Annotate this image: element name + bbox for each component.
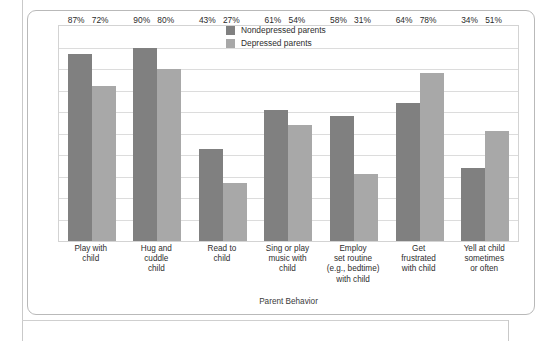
bar-group: 61%54% [256, 26, 322, 241]
x-axis-category-labels: Play withchildHug andcuddlechildRead toc… [58, 244, 519, 296]
category-label-line: sometimes [443, 254, 525, 264]
page-edge-right-rule [508, 320, 509, 341]
category-label: Yell at childsometimesor often [443, 244, 525, 275]
bar-column: 80% [157, 26, 181, 241]
bar-column: 78% [420, 26, 444, 241]
bar-group: 43%27% [190, 26, 256, 241]
bar-value-label: 80% [157, 15, 174, 25]
legend-label: Depressed parents [241, 38, 312, 48]
bar[interactable]: 27% [223, 183, 247, 241]
plot-area: 87%72%90%80%43%27%61%54%58%31%64%78%34%5… [58, 25, 519, 242]
bar-value-label: 31% [354, 15, 371, 25]
x-axis-title: Parent Behavior [58, 297, 519, 306]
chart-legend: Nondepressed parentsDepressed parents [226, 25, 326, 48]
bar-value-label: 54% [288, 15, 305, 25]
bar[interactable]: 72% [92, 86, 116, 241]
page-bottom-rule [22, 320, 509, 321]
bar-group: 87%72% [59, 26, 125, 241]
bar-value-label: 72% [92, 15, 109, 25]
category-label-line: Yell at child [443, 244, 525, 254]
bar-column: 54% [288, 26, 312, 241]
bar[interactable]: 87% [68, 54, 92, 241]
bar-value-label: 51% [485, 15, 502, 25]
bar-value-label: 43% [199, 15, 216, 25]
bar-value-label: 61% [264, 15, 281, 25]
legend-item[interactable]: Nondepressed parents [226, 25, 326, 35]
bar-column: 51% [485, 26, 509, 241]
bar-group: 34%51% [452, 26, 518, 241]
bar[interactable]: 34% [461, 168, 485, 241]
bar[interactable]: 54% [288, 125, 312, 241]
bar[interactable]: 43% [199, 149, 223, 241]
bar-value-label: 58% [330, 15, 347, 25]
bar-value-label: 78% [420, 15, 437, 25]
legend-swatch-icon [226, 39, 235, 48]
bar-group: 90%80% [125, 26, 191, 241]
bar-group: 58%31% [321, 26, 387, 241]
bar[interactable]: 61% [264, 110, 288, 241]
bar-column: 58% [330, 26, 354, 241]
page-edge-left-rule [22, 0, 23, 341]
figure-card: Percentage Who Act This Way Every Day 87… [27, 10, 535, 315]
bar[interactable]: 51% [485, 131, 509, 241]
bar[interactable]: 31% [354, 174, 378, 241]
bar-column: 61% [264, 26, 288, 241]
bar-group: 64%78% [387, 26, 453, 241]
bar-value-label: 34% [461, 15, 478, 25]
bar[interactable]: 80% [157, 69, 181, 241]
bar-column: 90% [133, 26, 157, 241]
bar-value-label: 27% [223, 15, 240, 25]
bar[interactable]: 58% [330, 116, 354, 241]
category-label-line: child [116, 264, 198, 274]
legend-swatch-icon [226, 26, 235, 35]
bar-column: 31% [354, 26, 378, 241]
bar-value-label: 87% [68, 15, 85, 25]
bar-column: 34% [461, 26, 485, 241]
bar[interactable]: 64% [396, 103, 420, 241]
bar[interactable]: 78% [420, 73, 444, 241]
bar-value-label: 90% [133, 15, 150, 25]
legend-item[interactable]: Depressed parents [226, 38, 326, 48]
legend-label: Nondepressed parents [241, 25, 326, 35]
bar-column: 64% [396, 26, 420, 241]
bar-column: 72% [92, 26, 116, 241]
bar-value-label: 64% [396, 15, 413, 25]
bar-column: 43% [199, 26, 223, 241]
bar[interactable]: 90% [133, 48, 157, 242]
bars-layer: 87%72%90%80%43%27%61%54%58%31%64%78%34%5… [59, 26, 518, 241]
category-label-line: or often [443, 264, 525, 274]
bar-column: 87% [68, 26, 92, 241]
bar-column: 27% [223, 26, 247, 241]
category-label-line: with child [312, 275, 394, 285]
